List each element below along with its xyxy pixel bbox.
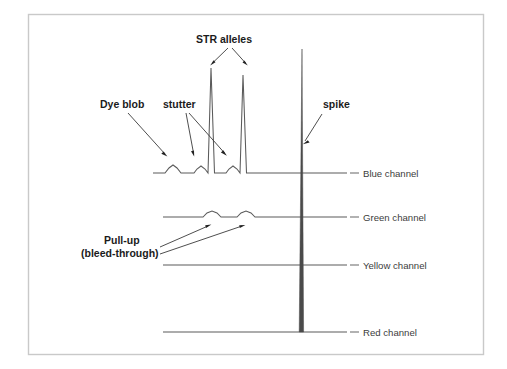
pullup-label-line2: (bleed-through) [81,247,159,259]
figure-frame [29,15,484,355]
red-channel-label: Red channel [363,327,417,338]
figure-root: Blue channel Green channel Yellow channe… [0,0,507,369]
stutter-label: stutter [163,98,196,110]
electropherogram-artifact-diagram: Blue channel Green channel Yellow channe… [0,0,507,369]
dye-blob-label: Dye blob [100,98,144,110]
blue-channel-label: Blue channel [363,168,418,179]
pullup-label-line1: Pull-up [104,234,140,246]
str-alleles-label: STR alleles [196,33,252,45]
yellow-channel-label: Yellow channel [363,260,427,271]
green-channel-label: Green channel [363,212,426,223]
spike-label: spike [323,98,350,110]
